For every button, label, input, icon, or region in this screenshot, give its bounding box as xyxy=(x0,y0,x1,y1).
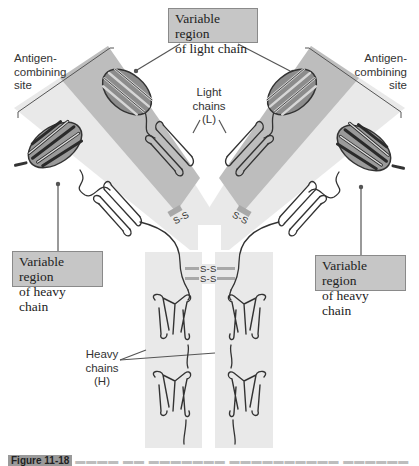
label-line: site xyxy=(14,79,66,93)
variable-heavy-chain-left-label: Variable region of heavy chain xyxy=(12,251,103,287)
label-line: of light chain xyxy=(175,41,251,56)
label-line: Antigen- xyxy=(14,52,66,66)
light-chains-label: Light chains (L) xyxy=(186,86,232,127)
label-line: of heavy chain xyxy=(19,284,96,314)
label-line: Variable region xyxy=(175,11,251,41)
label-line: of heavy chain xyxy=(322,288,399,318)
label-line: chains xyxy=(186,100,232,114)
label-line: (H) xyxy=(80,375,124,389)
label-line: Light xyxy=(186,86,232,100)
label-line: Antigen- xyxy=(347,52,407,66)
label-line: combining xyxy=(14,66,66,80)
figure-caption: Figure 11-18 ▬▬▬▬ ▬▬ ▬▬▬▬▬▬▬ ▬▬▬▬▬▬▬▬▬▬ … xyxy=(8,455,409,466)
antigen-site-left-label: Antigen- combining site xyxy=(14,52,66,93)
antigen-site-right-label: Antigen- combining site xyxy=(347,52,407,93)
heavy-chains-label: Heavy chains (H) xyxy=(80,348,124,389)
figure-number: Figure 11-18 xyxy=(8,455,72,466)
label-line: Variable region xyxy=(19,254,96,284)
disulfide-bond-hinge-lower: S-S xyxy=(199,274,217,284)
label-line: chains xyxy=(80,362,124,376)
caption-text: ▬▬▬▬ ▬▬ ▬▬▬▬▬▬▬ ▬▬▬▬▬▬▬▬▬▬ ▬▬▬▬▬▬ xyxy=(75,455,409,466)
variable-light-chain-label: Variable region of light chain xyxy=(168,8,258,43)
label-line: (L) xyxy=(186,113,232,127)
label-line: Variable region xyxy=(322,258,399,288)
variable-heavy-chain-right-label: Variable region of heavy chain xyxy=(315,255,406,291)
label-line: site xyxy=(347,79,407,93)
label-line: combining xyxy=(347,66,407,80)
label-line: Heavy xyxy=(80,348,124,362)
